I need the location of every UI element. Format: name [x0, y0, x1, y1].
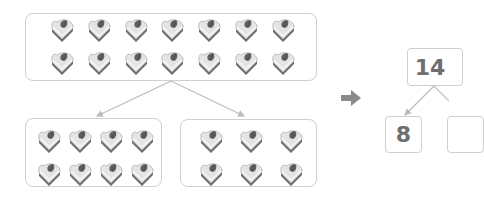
number-bond-part-1: 8: [385, 116, 422, 153]
cake-slice-icon: [36, 162, 62, 186]
cake-slice-icon: [198, 162, 224, 186]
cake-slice-icon: [49, 18, 75, 42]
cake-slice-icon: [233, 18, 259, 42]
cake-slice-icon: [270, 51, 296, 75]
cake-slice-icon: [278, 129, 304, 153]
number-bond-part-2: [447, 116, 484, 153]
cake-slice-icon: [129, 129, 155, 153]
cake-slice-icon: [278, 162, 304, 186]
cake-slice-icon: [159, 51, 185, 75]
cake-slice-icon: [123, 18, 149, 42]
cake-slice-icon: [238, 162, 264, 186]
cake-slice-icon: [98, 129, 124, 153]
cake-slice-icon: [129, 162, 155, 186]
cake-slice-icon: [196, 51, 222, 75]
cake-slice-icon: [86, 51, 112, 75]
cake-slice-icon: [86, 18, 112, 42]
cake-slice-icon: [67, 162, 93, 186]
right-arrow-icon: [340, 89, 362, 107]
cake-slice-icon: [49, 51, 75, 75]
cake-slice-icon: [233, 51, 259, 75]
cake-slice-icon: [198, 129, 224, 153]
whole-number: 14: [415, 55, 446, 80]
part-number-1: 8: [396, 122, 411, 147]
cake-slice-icon: [238, 129, 264, 153]
cake-slice-icon: [159, 18, 185, 42]
cake-slice-icon: [270, 18, 296, 42]
cake-slice-icon: [36, 129, 62, 153]
number-bond-whole: 14: [407, 48, 463, 86]
cake-slice-icon: [123, 51, 149, 75]
cake-slice-icon: [196, 18, 222, 42]
cake-slice-icon: [98, 162, 124, 186]
cake-slice-icon: [67, 129, 93, 153]
